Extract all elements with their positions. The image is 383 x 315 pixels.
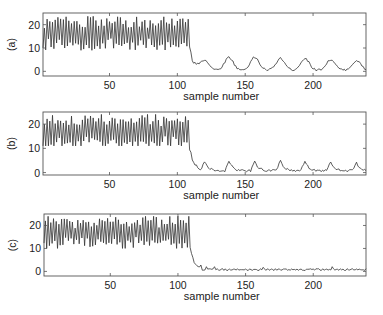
panel-a: 5010015020001020(a)sample number (5, 13, 366, 102)
x-tick-label: 200 (304, 79, 322, 91)
x-tick-label: 50 (104, 79, 116, 91)
y-tick-label: 20 (28, 19, 40, 31)
x-axis-label: sample number (183, 189, 259, 201)
x-tick-label: 200 (304, 178, 322, 190)
panel-b: 5010015020001020(b)sample number (5, 112, 366, 201)
x-tick-label: 50 (104, 279, 116, 291)
figure: 5010015020001020(a)sample number50100150… (0, 0, 383, 315)
y-tick-label: 10 (29, 242, 41, 254)
y-tick-label: 10 (28, 142, 40, 154)
panel-label: (a) (5, 38, 17, 51)
x-axis-label: sample number (184, 290, 260, 302)
data-line (44, 216, 366, 270)
y-tick-label: 0 (35, 265, 41, 277)
x-tick-label: 200 (304, 279, 322, 291)
axes-frame (43, 112, 366, 175)
panel-label: (c) (6, 239, 18, 251)
x-tick-label: 50 (104, 178, 116, 190)
y-tick-label: 20 (29, 219, 41, 231)
panel-label: (b) (5, 137, 17, 150)
data-line (43, 16, 366, 71)
data-line (43, 114, 366, 171)
y-tick-label: 20 (28, 118, 40, 130)
y-tick-label: 0 (34, 167, 40, 179)
panel-c: 5010015020001020(c)sample number (6, 214, 366, 302)
x-axis-label: sample number (183, 90, 259, 102)
y-tick-label: 10 (28, 42, 40, 54)
y-tick-label: 0 (34, 65, 40, 77)
